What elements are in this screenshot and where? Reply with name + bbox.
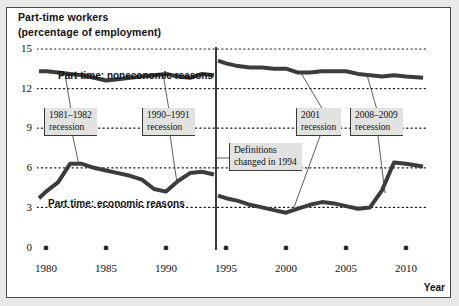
line-economic-pre1994	[39, 164, 214, 198]
annotation-definitions-changed: Definitions changed in 1994	[229, 143, 302, 171]
y-tick-0: 0	[10, 241, 32, 253]
y-tick-15: 15	[10, 42, 32, 54]
x-axis-title: Year	[424, 282, 445, 293]
y-tick-9: 9	[10, 121, 32, 133]
y-tick-6: 6	[10, 161, 32, 173]
y-tick-3: 3	[10, 201, 32, 213]
y-tick-12: 12	[10, 82, 32, 94]
annotation-recession-2008-line2: recession	[355, 122, 398, 134]
chart-title-line2: (percentage of employment)	[18, 26, 161, 38]
x-axis-tick-dots	[44, 246, 409, 250]
annotation-recession-1981-line2: recession	[49, 122, 92, 134]
x-tick-2005: 2005	[325, 262, 367, 274]
annotation-leader-lines	[65, 73, 385, 210]
annotation-recession-1981: 1981–1982 recession	[44, 108, 97, 136]
x-tick-2010: 2010	[385, 262, 427, 274]
x-tick-2000: 2000	[265, 262, 307, 274]
annotation-recession-2008: 2008–2009 recession	[350, 108, 403, 136]
x-tick-1990: 1990	[145, 262, 187, 274]
annotation-recession-2001-line1: 2001	[301, 110, 336, 122]
chart-title-line1: Part-time workers	[18, 11, 108, 23]
x-tick-1995: 1995	[205, 262, 247, 274]
annotation-recession-2001-line2: recession	[301, 122, 336, 134]
x-tick-1985: 1985	[85, 262, 127, 274]
annotation-definitions-line2: changed in 1994	[234, 157, 297, 169]
chart-figure: Part-time workers (percentage of employm…	[0, 0, 459, 306]
line-noneconomic-post1994	[218, 61, 423, 78]
annotation-recession-1990: 1990–1991 recession	[142, 108, 195, 136]
series-label-noneconomic: Part time: noneconomic reasons	[58, 70, 213, 81]
series-label-economic: Part time: economic reasons	[48, 198, 185, 209]
x-tick-1980: 1980	[25, 262, 67, 274]
annotation-recession-1990-line2: recession	[147, 122, 190, 134]
annotation-definitions-line1: Definitions	[234, 145, 297, 157]
annotation-recession-2008-line1: 2008–2009	[355, 110, 398, 122]
annotation-recession-1990-line1: 1990–1991	[147, 110, 190, 122]
annotation-recession-1981-line1: 1981–1982	[49, 110, 92, 122]
annotation-recession-2001: 2001 recession	[296, 108, 341, 136]
